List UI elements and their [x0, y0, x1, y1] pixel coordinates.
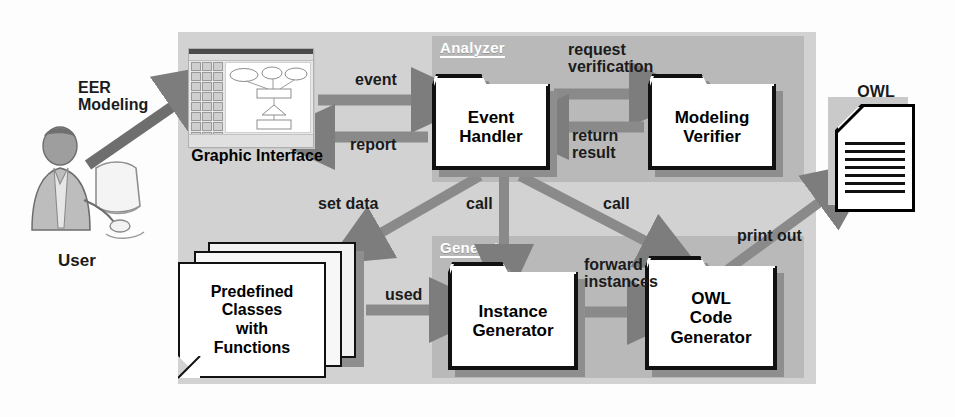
modeling-verifier-label: Modeling Verifier — [648, 84, 776, 170]
palette-button[interactable] — [202, 72, 212, 81]
palette-button[interactable] — [191, 72, 201, 81]
instance-generator-line-2: Generator — [472, 321, 553, 340]
edge-label-event: event — [355, 72, 397, 89]
er-diagram-icon — [226, 63, 310, 134]
edge-label-return-result: return result — [572, 128, 618, 162]
palette-button[interactable] — [202, 112, 212, 121]
palette-button[interactable] — [213, 112, 223, 121]
owl-code-generator-label: OWL Code Generator — [645, 266, 777, 370]
edge-label-call-instance: call — [466, 196, 493, 213]
owl-code-generator-box[interactable]: OWL Code Generator — [645, 256, 777, 370]
document-text-line — [845, 150, 905, 153]
edge-label-print-out: print out — [737, 228, 802, 245]
event-handler-label: Event Handler — [432, 84, 550, 170]
instance-generator-label: Instance Generator — [448, 272, 578, 370]
forward-line-2: instances — [584, 274, 658, 291]
event-handler-line-1: Event — [468, 108, 514, 127]
analyzer-panel-title: Analyzer — [440, 39, 505, 58]
edge-label-request-verification: request verification — [568, 42, 653, 76]
edge-label-used: used — [385, 287, 422, 304]
palette-button[interactable] — [213, 82, 223, 91]
palette-button[interactable] — [202, 92, 212, 101]
report-line-1: report — [350, 137, 396, 154]
document-text-line — [845, 166, 905, 169]
edge-label-eer-modeling: EER Modeling — [78, 80, 148, 114]
palette-button[interactable] — [191, 122, 201, 131]
modeling-verifier-box[interactable]: Modeling Verifier — [648, 74, 776, 170]
predefined-classes-stack[interactable]: Predefined Classes with Functions — [178, 242, 358, 382]
event-handler-line-2: Handler — [459, 127, 522, 146]
owl-code-document[interactable] — [835, 104, 915, 212]
edge-label-forward-instances: forward instances — [584, 257, 658, 291]
palette-button[interactable] — [202, 62, 212, 71]
call2-line-1: call — [603, 196, 630, 213]
event-line-1: event — [355, 72, 397, 89]
document-text-line — [845, 158, 905, 161]
owl-code-generator-line-1: OWL — [691, 289, 731, 308]
instance-generator-box[interactable]: Instance Generator — [448, 262, 578, 370]
palette-button[interactable] — [202, 102, 212, 111]
predefined-classes-line-1: Predefined — [211, 283, 294, 302]
predefined-classes-line-2: Classes — [222, 301, 283, 320]
palette-button[interactable] — [213, 92, 223, 101]
modeling-verifier-line-2: Verifier — [683, 127, 741, 146]
retres-line-2: result — [572, 145, 618, 162]
window-menubar — [189, 54, 313, 61]
predefined-classes-line-4: Functions — [214, 339, 290, 358]
tool-palette[interactable] — [191, 62, 223, 133]
instance-generator-line-1: Instance — [479, 302, 548, 321]
user-label: User — [22, 252, 132, 270]
palette-button[interactable] — [202, 122, 212, 131]
graphic-interface-label: Graphic Interface — [182, 148, 332, 165]
call1-line-1: call — [466, 196, 493, 213]
graphic-interface-window[interactable] — [188, 48, 314, 148]
edge-label-report: report — [350, 137, 396, 154]
generator-panel-title: Generator — [440, 239, 514, 258]
edge-label-call-owl: call — [603, 196, 630, 213]
event-handler-box[interactable]: Event Handler — [432, 74, 550, 170]
palette-button[interactable] — [191, 102, 201, 111]
palette-button[interactable] — [213, 72, 223, 81]
document-text-lines — [845, 142, 905, 198]
modeling-verifier-line-1: Modeling — [675, 108, 750, 127]
retres-line-1: return — [572, 128, 618, 145]
palette-button[interactable] — [191, 112, 201, 121]
used-line-1: used — [385, 287, 422, 304]
palette-button[interactable] — [191, 92, 201, 101]
document-text-line — [845, 142, 905, 145]
predefined-classes-label: Predefined Classes with Functions — [178, 262, 326, 378]
document-text-line — [845, 190, 905, 193]
architecture-diagram: Analyzer Generator — [0, 0, 955, 417]
document-fold-icon — [835, 104, 865, 134]
edge-label-set-data: set data — [318, 196, 378, 213]
er-diagram-canvas[interactable] — [225, 62, 311, 133]
palette-button[interactable] — [191, 62, 201, 71]
printout-line-1: print out — [737, 228, 802, 245]
reqver-line-1: request — [568, 42, 653, 59]
eer-line-1: EER — [78, 80, 148, 97]
document-text-line — [845, 174, 905, 177]
owl-code-generator-line-3: Generator — [670, 328, 751, 347]
setdata-line-1: set data — [318, 196, 378, 213]
eer-line-2: Modeling — [78, 97, 148, 114]
owl-code-generator-line-2: Code — [690, 308, 733, 327]
user-figure-icon — [10, 110, 170, 250]
palette-button[interactable] — [202, 82, 212, 91]
document-text-line — [845, 182, 905, 185]
palette-button[interactable] — [191, 82, 201, 91]
predefined-classes-line-3: with — [236, 320, 268, 339]
window-statusbar — [189, 134, 313, 147]
palette-button[interactable] — [213, 62, 223, 71]
reqver-line-2: verification — [568, 59, 653, 76]
palette-button[interactable] — [213, 102, 223, 111]
forward-line-1: forward — [584, 257, 658, 274]
palette-button[interactable] — [213, 122, 223, 131]
